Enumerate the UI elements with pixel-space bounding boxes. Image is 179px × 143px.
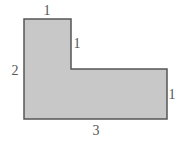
diagram-canvas: 1 1 2 1 3	[0, 0, 179, 143]
l-shape-figure: 1 1 2 1 3	[0, 0, 179, 143]
label-left: 2	[12, 63, 19, 78]
label-bottom: 3	[93, 123, 100, 138]
label-top: 1	[44, 3, 51, 18]
label-inner-vertical: 1	[74, 36, 81, 51]
l-shape	[24, 19, 167, 119]
label-right: 1	[169, 87, 176, 102]
